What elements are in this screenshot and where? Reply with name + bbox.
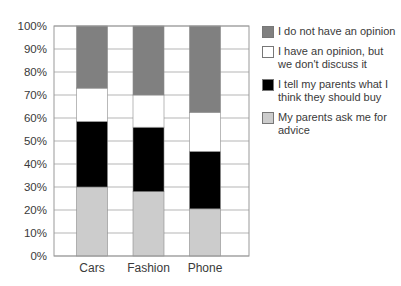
legend-swatch [262, 26, 274, 38]
y-tick-label: 60% [24, 112, 47, 124]
bar-segment [190, 112, 221, 151]
y-tick-label: 100% [18, 20, 47, 32]
legend-label: My parents ask me foradvice [278, 111, 387, 137]
bar-segment [190, 26, 221, 112]
bar-segment [190, 151, 221, 209]
legend: I do not have an opinionI have an opinio… [262, 25, 401, 144]
bar-segment [77, 121, 108, 187]
y-tick-label: 70% [24, 89, 47, 101]
legend-label: I do not have an opinion [278, 25, 395, 38]
x-tick-label: Fashion [127, 261, 170, 275]
bar-segment [133, 95, 164, 127]
y-tick-label: 0% [30, 250, 47, 262]
x-tick-label: Cars [79, 261, 104, 275]
y-tick-label: 40% [24, 158, 47, 170]
legend-label: I tell my parents what Ithink they shoul… [278, 78, 388, 104]
bar-segment [77, 26, 108, 88]
legend-item: I have an opinion, butwe don't discuss i… [262, 45, 401, 71]
legend-item: My parents ask me foradvice [262, 111, 401, 137]
y-tick-label: 90% [24, 43, 47, 55]
y-tick-label: 80% [24, 66, 47, 78]
x-tick-label: Phone [188, 261, 223, 275]
y-axis-ticks: 0%10%20%30%40%50%60%70%80%90%100% [18, 20, 47, 262]
legend-label: I have an opinion, butwe don't discuss i… [278, 45, 383, 71]
legend-swatch [262, 112, 274, 124]
y-tick-label: 30% [24, 181, 47, 193]
legend-item: I tell my parents what Ithink they shoul… [262, 78, 401, 104]
bar-segment [77, 187, 108, 256]
legend-item: I do not have an opinion [262, 25, 401, 38]
bar-segment [133, 26, 164, 95]
y-tick-label: 50% [24, 135, 47, 147]
x-axis-labels: CarsFashionPhone [79, 261, 222, 275]
legend-swatch [262, 46, 274, 58]
bars [77, 26, 221, 256]
bar-segment [133, 192, 164, 256]
legend-swatch [262, 79, 274, 91]
bar-segment [77, 88, 108, 121]
y-tick-label: 20% [24, 204, 47, 216]
y-tick-label: 10% [24, 227, 47, 239]
bar-segment [133, 127, 164, 191]
bar-segment [190, 209, 221, 256]
